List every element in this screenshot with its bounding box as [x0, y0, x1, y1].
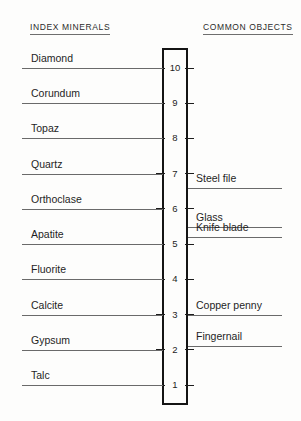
object-label: Fingernail	[196, 330, 242, 342]
object-label: Steel file	[196, 172, 236, 184]
column-header-common-objects: COMMON OBJECTS	[203, 22, 293, 35]
tick-label: 2	[162, 344, 188, 356]
tick-label: 3	[162, 309, 188, 321]
mineral-label: Calcite	[31, 299, 63, 311]
tick-label: 8	[162, 132, 188, 144]
leader-line	[188, 346, 282, 347]
leader-line	[22, 103, 163, 104]
leader-line	[22, 174, 163, 175]
object-label: Copper penny	[196, 299, 262, 311]
leader-line	[22, 279, 163, 280]
leader-line	[22, 68, 163, 69]
mohs-hardness-scale-figure: INDEX MINERALS COMMON OBJECTS 1098765432…	[0, 0, 301, 421]
leader-line	[22, 350, 163, 351]
tick-label: 10	[162, 62, 188, 74]
leader-line	[22, 209, 163, 210]
mineral-label: Orthoclase	[31, 193, 82, 205]
leader-line	[22, 244, 163, 245]
leader-line	[188, 237, 282, 238]
leader-line	[188, 315, 282, 316]
mineral-label: Gypsum	[31, 334, 70, 346]
tick-label: 6	[162, 203, 188, 215]
mineral-label: Apatite	[31, 228, 64, 240]
mineral-label: Corundum	[31, 87, 80, 99]
tick-label: 5	[162, 238, 188, 250]
tick-label: 9	[162, 97, 188, 109]
leader-line	[188, 188, 282, 189]
mineral-label: Talc	[31, 369, 50, 381]
leader-line	[22, 385, 163, 386]
tick-label: 1	[162, 379, 188, 391]
object-label: Knife blade	[196, 221, 249, 233]
leader-line	[22, 315, 163, 316]
mineral-label: Topaz	[31, 122, 59, 134]
tick-label: 4	[162, 273, 188, 285]
column-header-index-minerals: INDEX MINERALS	[30, 22, 110, 35]
leader-line	[22, 138, 163, 139]
mineral-label: Diamond	[31, 52, 73, 64]
mineral-label: Quartz	[31, 158, 63, 170]
mineral-label: Fluorite	[31, 263, 66, 275]
tick-label: 7	[162, 168, 188, 180]
